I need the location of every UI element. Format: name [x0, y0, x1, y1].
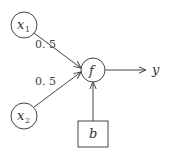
weight-label-w1: 0. 5 [35, 38, 56, 51]
output-label-y: y [151, 62, 160, 77]
weight-label-w2: 0. 5 [35, 75, 56, 88]
x2-label: x [17, 108, 25, 123]
b-label: b [89, 126, 97, 141]
f-label: f [88, 63, 96, 78]
input-node-x2: x 2 [11, 103, 37, 129]
bias-node-b: b [78, 121, 108, 147]
perceptron-diagram: x 1 x 2 0. 5 0. 5 f y b [0, 0, 170, 153]
input-node-x1: x 1 [11, 12, 37, 38]
x2-subscript: 2 [25, 116, 30, 125]
x1-subscript: 1 [25, 25, 30, 34]
activation-node-f: f [81, 58, 105, 82]
x1-label: x [17, 17, 25, 32]
